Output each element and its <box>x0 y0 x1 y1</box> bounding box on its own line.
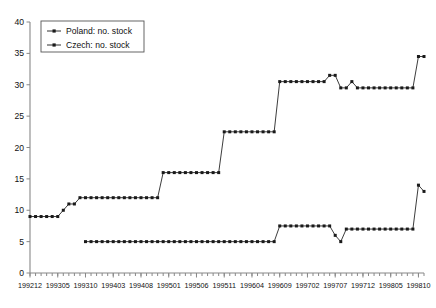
data-point <box>101 196 104 199</box>
data-point <box>217 171 220 174</box>
data-point <box>417 55 420 58</box>
x-tick-label: 199501 <box>157 281 181 290</box>
data-point <box>212 171 215 174</box>
data-point <box>367 228 370 231</box>
x-tick-label: 199403 <box>101 281 125 290</box>
legend-sample-marker <box>53 43 56 46</box>
data-point <box>250 130 253 133</box>
data-point <box>189 240 192 243</box>
data-point <box>139 240 142 243</box>
data-point <box>411 228 414 231</box>
y-tick-label: 30 <box>14 80 24 90</box>
data-point <box>123 196 126 199</box>
data-point <box>411 86 414 89</box>
data-point <box>350 228 353 231</box>
data-point <box>245 240 248 243</box>
data-point <box>67 202 70 205</box>
data-point <box>278 224 281 227</box>
chart-legend: Poland: no. stockCzech: no. stock <box>41 21 144 52</box>
data-point <box>289 224 292 227</box>
data-point <box>339 86 342 89</box>
x-tick-label: 199810 <box>406 281 430 290</box>
x-tick-label: 199805 <box>379 281 403 290</box>
data-point <box>300 80 303 83</box>
data-point <box>361 86 364 89</box>
data-point <box>145 240 148 243</box>
data-point <box>151 196 154 199</box>
data-point <box>345 228 348 231</box>
data-point <box>167 171 170 174</box>
data-point <box>206 240 209 243</box>
x-tick-label: 199702 <box>295 281 319 290</box>
data-point <box>334 234 337 237</box>
data-point <box>356 86 359 89</box>
series-layer <box>29 55 426 243</box>
data-point <box>167 240 170 243</box>
data-point <box>373 86 376 89</box>
data-point <box>189 171 192 174</box>
data-point <box>373 228 376 231</box>
data-point <box>378 86 381 89</box>
data-point <box>184 240 187 243</box>
data-point <box>78 196 81 199</box>
data-point <box>284 80 287 83</box>
data-point <box>29 215 32 218</box>
data-point <box>339 240 342 243</box>
data-point <box>95 240 98 243</box>
line-chart: 0510152025303540 19921219930519931019940… <box>0 0 436 308</box>
data-point <box>323 224 326 227</box>
data-point <box>328 74 331 77</box>
x-tick-label: 199511 <box>212 281 235 290</box>
data-point <box>295 224 298 227</box>
series-path <box>85 185 424 241</box>
x-tick-label: 199305 <box>46 281 70 290</box>
data-point <box>400 86 403 89</box>
data-point <box>62 209 65 212</box>
data-point <box>273 130 276 133</box>
data-point <box>195 171 198 174</box>
data-point <box>128 240 131 243</box>
y-axis: 0510152025303540 <box>14 17 30 278</box>
x-tick-label: 199712 <box>351 281 375 290</box>
data-point <box>289 80 292 83</box>
data-point <box>256 130 259 133</box>
y-tick-label: 10 <box>14 205 24 215</box>
data-point <box>278 80 281 83</box>
data-point <box>378 228 381 231</box>
data-point <box>112 240 115 243</box>
y-tick-label: 25 <box>14 111 24 121</box>
series-path <box>30 57 424 217</box>
data-point <box>295 80 298 83</box>
x-tick-label: 199604 <box>240 281 264 290</box>
x-tick-label: 199310 <box>74 281 98 290</box>
data-point <box>173 240 176 243</box>
data-point <box>356 228 359 231</box>
data-point <box>350 80 353 83</box>
data-point <box>395 86 398 89</box>
data-point <box>317 80 320 83</box>
x-axis: 1992121993051993101994031994081995011995… <box>18 273 430 290</box>
data-point <box>84 240 87 243</box>
data-point <box>184 171 187 174</box>
data-point <box>345 86 348 89</box>
data-point <box>334 74 337 77</box>
data-point <box>212 240 215 243</box>
series-poland <box>29 55 426 218</box>
data-point <box>145 196 148 199</box>
data-point <box>162 171 165 174</box>
data-point <box>173 171 176 174</box>
data-point <box>223 130 226 133</box>
data-point <box>406 228 409 231</box>
data-point <box>84 196 87 199</box>
data-point <box>328 224 331 227</box>
data-point <box>156 196 159 199</box>
x-tick-label: 199506 <box>184 281 208 290</box>
data-point <box>234 130 237 133</box>
data-point <box>228 130 231 133</box>
data-point <box>367 86 370 89</box>
y-tick-label: 20 <box>14 143 24 153</box>
data-point <box>106 240 109 243</box>
data-point <box>312 80 315 83</box>
data-point <box>417 184 420 187</box>
data-point <box>40 215 43 218</box>
